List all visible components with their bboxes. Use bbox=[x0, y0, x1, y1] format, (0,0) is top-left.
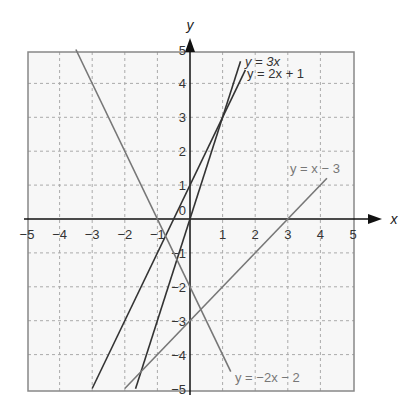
line-chart: xy−5−4−3−2−112345543210−1−2−3−4−5y = 3xy… bbox=[0, 0, 402, 415]
x-tick-label: 1 bbox=[219, 227, 226, 242]
y-tick-label: 4 bbox=[179, 76, 186, 91]
x-tick-label: 3 bbox=[284, 227, 291, 242]
y-tick-label: −4 bbox=[171, 348, 186, 363]
x-tick-label: 4 bbox=[317, 227, 324, 242]
x-tick-label: −5 bbox=[20, 227, 35, 242]
x-tick-label: 5 bbox=[349, 227, 356, 242]
x-tick-label: −4 bbox=[52, 227, 67, 242]
x-tick-label: 2 bbox=[252, 227, 259, 242]
y-tick-label: 2 bbox=[179, 144, 186, 159]
y-axis-label: y bbox=[186, 17, 195, 33]
plot-area bbox=[28, 52, 354, 391]
equation-label: y = −2x − 2 bbox=[235, 370, 300, 385]
y-tick-label: 3 bbox=[179, 110, 186, 125]
y-tick-label: 1 bbox=[179, 178, 186, 193]
y-tick-label: −2 bbox=[171, 280, 186, 295]
y-axis-arrow-icon bbox=[185, 38, 195, 52]
y-tick-label: 5 bbox=[179, 43, 186, 58]
x-axis-label: x bbox=[390, 211, 399, 227]
y-tick-label: −5 bbox=[171, 382, 186, 397]
equation-label: y = 2x + 1 bbox=[247, 66, 304, 81]
equation-label: y = x − 3 bbox=[290, 161, 340, 176]
x-tick-label: −2 bbox=[117, 227, 132, 242]
x-axis-arrow-icon bbox=[368, 214, 382, 224]
x-tick-label: −3 bbox=[85, 227, 100, 242]
